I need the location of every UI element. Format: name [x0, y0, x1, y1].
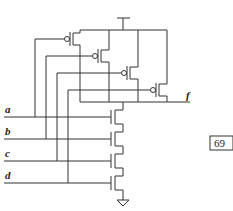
- input-label-c: c: [5, 147, 10, 159]
- page-number: 69: [214, 137, 226, 149]
- output-label-f: f: [186, 89, 191, 101]
- input-label-b: b: [5, 125, 11, 137]
- vdd-icon: [117, 18, 130, 30]
- ground-icon: [117, 200, 129, 206]
- input-label-a: a: [5, 103, 11, 115]
- nmos-b: [4, 132, 123, 154]
- pmos-d: [68, 30, 167, 183]
- nand4-schematic: f a b c d 69: [0, 0, 233, 211]
- input-label-d: d: [5, 169, 11, 181]
- nmos-a: [4, 110, 123, 132]
- pmos-b: [46, 30, 109, 139]
- nmos-c: [4, 154, 123, 176]
- nmos-d: [4, 176, 123, 200]
